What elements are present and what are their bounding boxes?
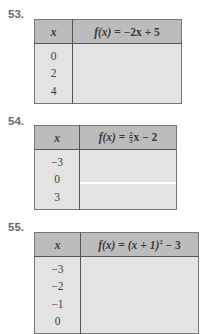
fx-value-input[interactable] <box>81 257 199 278</box>
fx-value-input[interactable] <box>73 65 182 83</box>
x-value: 3 <box>35 188 80 209</box>
fx-value-input[interactable] <box>80 171 177 189</box>
table-row: 0 <box>35 171 177 189</box>
function-table-54: x f(x) = 23x − 2 −3 0 3 <box>34 125 177 210</box>
table-row: −3 <box>35 257 199 278</box>
x-column-header: x <box>35 126 80 150</box>
x-value: −2 <box>35 278 81 296</box>
fx-value-input[interactable] <box>73 82 182 103</box>
exercise-number-53: 53. <box>8 8 24 20</box>
x-value: 0 <box>35 44 73 65</box>
table-row: 4 <box>35 82 182 103</box>
x-value: −1 <box>35 295 81 313</box>
table-row: 0 <box>35 44 182 65</box>
fx-column-header: f(x) = −2x + 5 <box>73 20 182 44</box>
x-value: −3 <box>35 150 80 171</box>
table-row: −3 <box>35 150 177 171</box>
table-header-row: x f(x) = (x + 1)2 − 3 <box>35 233 199 257</box>
exercise-number-55: 55. <box>8 221 24 233</box>
fraction: 23 <box>129 131 132 144</box>
table-row: 0 <box>35 313 199 334</box>
x-value: 2 <box>35 65 73 83</box>
fx-value-input[interactable] <box>81 278 199 296</box>
fx-column-header: f(x) = 23x − 2 <box>80 126 177 150</box>
fx-value-input[interactable] <box>81 313 199 334</box>
x-value: −3 <box>35 257 81 278</box>
table-header-row: x f(x) = 23x − 2 <box>35 126 177 150</box>
x-value: 4 <box>35 82 73 103</box>
table-row: −2 <box>35 278 199 296</box>
function-table-55: x f(x) = (x + 1)2 − 3 −3 −2 −1 0 <box>34 232 199 334</box>
fx-column-header: f(x) = (x + 1)2 − 3 <box>81 233 199 257</box>
scan-artifact-line <box>80 182 176 184</box>
table-row: 3 <box>35 188 177 209</box>
table-row: −1 <box>35 295 199 313</box>
table-row: 2 <box>35 65 182 83</box>
function-table-53: x f(x) = −2x + 5 0 2 4 <box>34 19 182 104</box>
x-value: 0 <box>35 313 81 334</box>
x-column-header: x <box>35 233 81 257</box>
fx-value-input[interactable] <box>81 295 199 313</box>
x-column-header: x <box>35 20 73 44</box>
fx-value-input[interactable] <box>80 188 177 209</box>
table-header-row: x f(x) = −2x + 5 <box>35 20 182 44</box>
fx-value-input[interactable] <box>80 150 177 171</box>
x-value: 0 <box>35 171 80 189</box>
exercise-number-54: 54. <box>8 115 24 127</box>
fx-value-input[interactable] <box>73 44 182 65</box>
